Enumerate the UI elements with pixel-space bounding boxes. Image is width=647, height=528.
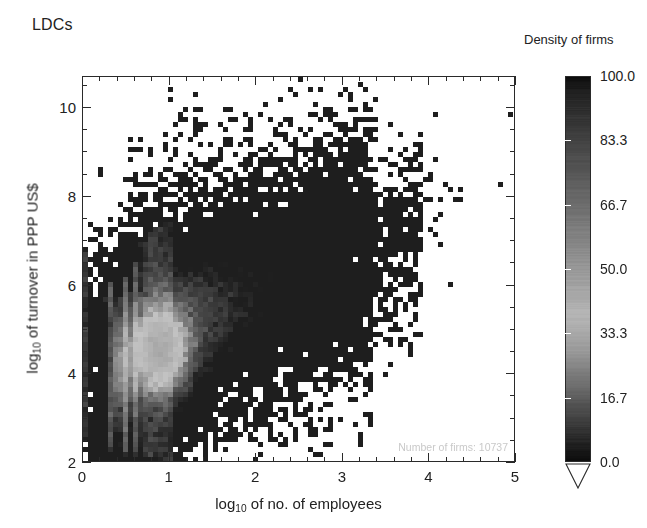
y-tick-minor [82,85,87,86]
x-tick-minor [290,457,291,462]
x-tick-minor [203,76,204,81]
y-tick-major [506,196,515,197]
y-tick-major [506,373,515,374]
colorbar-tick-label: 16.7 [600,390,627,406]
y-tick-minor [82,307,87,308]
x-tick-minor [151,76,152,81]
x-tick-minor [376,76,377,81]
x-tick-minor [117,457,118,462]
y-tick-minor [510,329,515,330]
x-tick-minor [359,76,360,81]
y-tick-minor [510,418,515,419]
density-heatmap [83,77,515,462]
y-tick-label: 6 [38,276,76,293]
x-tick-minor [238,76,239,81]
x-tick-label: 1 [164,468,172,485]
x-tick-minor [238,457,239,462]
x-tick-minor [463,457,464,462]
x-tick-minor [221,76,222,81]
x-tick-label: 5 [511,468,519,485]
y-tick-label: 8 [38,187,76,204]
y-tick-minor [510,85,515,86]
x-tick-minor [324,457,325,462]
y-tick-minor [82,218,87,219]
y-tick-minor [510,351,515,352]
x-tick-minor [463,76,464,81]
x-axis-title-sub: 10 [235,503,246,514]
x-axis-title-post: of no. of employees [247,495,382,512]
number-of-firms-annotation: Number of firms: 10737 [398,441,508,453]
x-axis-title: log10 of no. of employees [82,495,515,514]
x-tick-major [342,76,343,85]
colorbar-tick-label: 83.3 [600,132,627,148]
y-tick-minor [510,218,515,219]
y-tick-major [506,285,515,286]
y-tick-major [506,107,515,108]
x-tick-major [342,453,343,462]
y-axis-title-pre: log [24,354,41,374]
x-tick-minor [186,76,187,81]
x-tick-minor [99,76,100,81]
x-tick-minor [480,457,481,462]
x-tick-minor [203,457,204,462]
x-tick-major [515,453,516,462]
y-tick-minor [82,418,87,419]
y-tick-label: 10 [38,99,76,116]
x-tick-label: 0 [78,468,86,485]
y-tick-minor [82,262,87,263]
figure-root: LDCs Number of firms: 10737 012345 24681… [0,0,647,528]
colorbar-under-arrow-icon [565,463,591,489]
colorbar-tick [565,398,571,399]
y-tick-major [506,462,515,463]
y-tick-minor [510,240,515,241]
x-tick-minor [359,457,360,462]
plot-area[interactable]: Number of firms: 10737 [82,76,515,462]
y-tick-minor [82,174,87,175]
x-tick-minor [290,76,291,81]
x-tick-minor [446,76,447,81]
colorbar-tick [565,205,571,206]
y-tick-minor [510,395,515,396]
y-tick-major [82,373,91,374]
y-tick-minor [510,129,515,130]
x-tick-minor [186,457,187,462]
x-tick-minor [411,76,412,81]
x-tick-major [169,76,170,85]
x-tick-major [82,453,83,462]
y-tick-minor [82,329,87,330]
x-tick-minor [376,457,377,462]
y-tick-minor [510,440,515,441]
x-tick-major [428,76,429,85]
y-axis-title-sub: 10 [31,342,42,353]
page-title: LDCs [32,16,73,34]
x-tick-minor [324,76,325,81]
x-tick-minor [480,76,481,81]
x-tick-minor [273,457,274,462]
y-tick-minor [510,174,515,175]
x-axis-title-pre: log [215,495,235,512]
colorbar-tick [565,140,571,141]
x-tick-minor [307,457,308,462]
colorbar-tick [565,269,571,270]
y-tick-minor [82,395,87,396]
colorbar-tick [565,333,571,334]
y-tick-minor [82,151,87,152]
y-tick-minor [82,351,87,352]
x-tick-minor [394,457,395,462]
x-tick-minor [117,76,118,81]
y-tick-major [82,107,91,108]
x-tick-major [82,76,83,85]
y-tick-major [82,462,91,463]
x-tick-minor [221,457,222,462]
x-tick-minor [134,457,135,462]
y-tick-major [82,285,91,286]
y-axis-title: log10 of turnover in PPP US$ [24,113,43,443]
y-tick-minor [510,307,515,308]
colorbar-title: Density of firms [524,32,614,47]
x-tick-minor [134,76,135,81]
y-axis-title-post: of turnover in PPP US$ [24,183,41,342]
x-tick-major [169,453,170,462]
colorbar-tick-label: 33.3 [600,325,627,341]
x-tick-minor [307,76,308,81]
colorbar-tick-label: 100.0 [600,68,635,84]
